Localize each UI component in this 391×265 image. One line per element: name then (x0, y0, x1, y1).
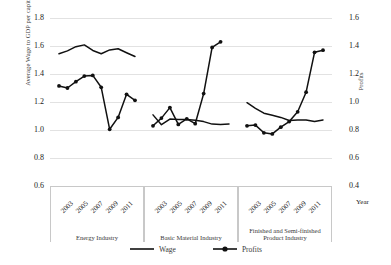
series-line-wage (247, 103, 323, 122)
panel-title: Basic Material Industry (145, 234, 237, 241)
data-point-marker (151, 124, 155, 128)
data-point-marker (185, 117, 189, 121)
panel-label-box: 20032005200720092011Energy Industry (50, 186, 144, 242)
y-tick-right: 1.0 (349, 98, 371, 106)
x-tick-label: 2005 (168, 199, 184, 215)
data-point-marker (108, 127, 112, 131)
x-tick-label: 2011 (214, 200, 229, 215)
data-point-marker (313, 50, 317, 54)
legend-item: Wage (129, 244, 176, 254)
y-tick-right: 1.2 (349, 70, 371, 78)
x-tick-label: 2003 (59, 199, 75, 215)
x-tick-label: 2009 (199, 199, 215, 215)
y-tick-right: 0.4 (349, 182, 371, 190)
series-line-wage (59, 45, 135, 57)
x-tick-label: 2003 (153, 199, 169, 215)
panel-title: Finished and Semi-finished Product Indus… (239, 227, 331, 241)
y-tick-right: 1.6 (349, 14, 371, 22)
data-point-marker (193, 122, 197, 126)
data-point-marker (296, 110, 300, 114)
data-point-marker (262, 131, 266, 135)
data-point-marker (125, 92, 129, 96)
x-tick-label: 2009 (293, 199, 309, 215)
data-point-marker (82, 74, 86, 78)
x-tick-label: 2011 (120, 200, 135, 215)
y-tick-right: 0.6 (349, 154, 371, 162)
legend-label: Wage (159, 245, 176, 254)
legend-swatch-profits (212, 244, 238, 254)
data-point-marker (160, 116, 164, 120)
panel-label-strip: 20032005200720092011Energy Industry20032… (50, 186, 332, 242)
data-point-marker (279, 125, 283, 129)
data-point-marker (74, 80, 78, 84)
chart-panel (238, 18, 332, 186)
data-point-marker (270, 132, 274, 136)
x-tick-label: 2007 (183, 199, 199, 215)
data-point-marker (57, 84, 61, 88)
data-point-marker (91, 74, 95, 78)
chart-panel (50, 18, 144, 186)
data-point-marker (245, 124, 249, 128)
x-tick-label: 2011 (308, 200, 323, 215)
data-point-marker (176, 123, 180, 127)
data-point-marker (99, 85, 103, 89)
chart-figure: Average Wage to GDP per capita Profits 1… (0, 0, 391, 265)
series-line-profits (153, 42, 221, 126)
legend-item: Profits (212, 244, 262, 254)
series-line-wage (153, 115, 229, 125)
x-tick-label: 2003 (247, 199, 263, 215)
data-point-marker (66, 86, 70, 90)
y-tick-left: 1.2 (22, 98, 44, 106)
data-point-marker (321, 48, 325, 52)
chart-legend: WageProfits (0, 244, 391, 254)
y-tick-left: 1.8 (22, 14, 44, 22)
x-tick-label: 2007 (277, 199, 293, 215)
y-tick-right: 1.4 (349, 42, 371, 50)
x-tick-label: 2007 (89, 199, 105, 215)
x-tick-label: 2009 (105, 199, 121, 215)
y-tick-right: 0.8 (349, 126, 371, 134)
panel-title: Energy Industry (51, 234, 143, 241)
y-tick-left: 1.4 (22, 70, 44, 78)
data-point-marker (116, 116, 120, 120)
y-tick-left: 1.6 (22, 42, 44, 50)
x-tick-label: 2005 (74, 199, 90, 215)
y-tick-left: 1.0 (22, 126, 44, 134)
data-point-marker (202, 92, 206, 96)
y-tick-left: 0.6 (22, 182, 44, 190)
data-point-marker (133, 98, 137, 102)
x-axis-title: Year (356, 198, 369, 206)
data-point-marker (287, 120, 291, 124)
plot-area (50, 18, 332, 186)
data-point-marker (304, 90, 308, 94)
legend-swatch-wage (129, 244, 155, 254)
data-point-marker (219, 40, 223, 44)
data-point-marker (168, 106, 172, 110)
y-tick-left: 0.8 (22, 154, 44, 162)
series-line-profits (59, 75, 135, 129)
x-tick-label: 2005 (262, 199, 278, 215)
panel-label-box: 20032005200720092011Finished and Semi-fi… (238, 186, 332, 242)
legend-label: Profits (242, 245, 262, 254)
chart-panel (144, 18, 238, 186)
data-point-marker (254, 123, 258, 127)
panel-label-box: 20032005200720092011Basic Material Indus… (144, 186, 238, 242)
data-point-marker (210, 46, 214, 50)
